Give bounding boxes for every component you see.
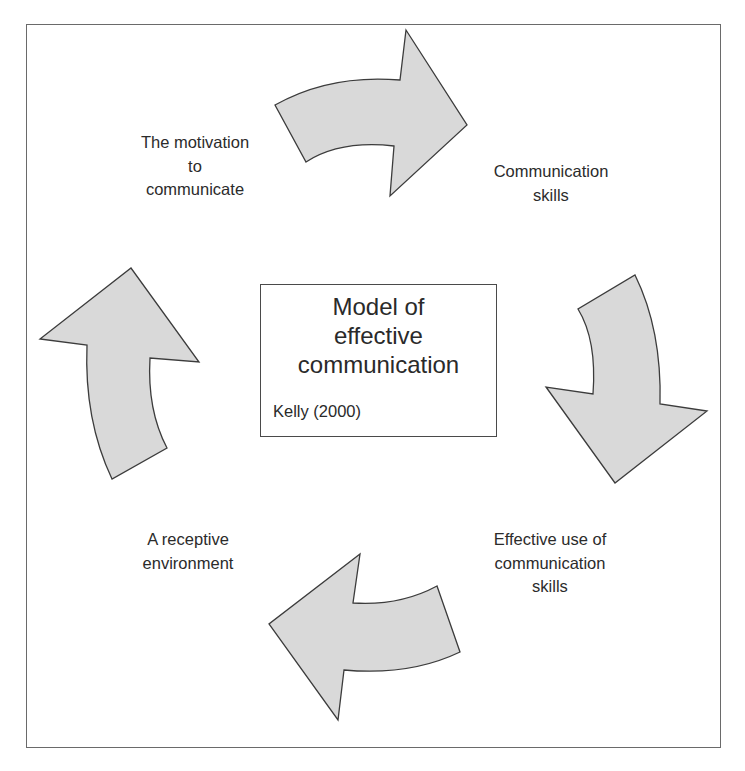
node-receptive-line-1: A receptive [143, 528, 234, 552]
center-title-line-3: communication [261, 350, 496, 379]
center-title-line-1: Model of [261, 292, 496, 321]
citation: Kelly (2000) [273, 402, 361, 421]
arrow-left-icon [269, 554, 460, 720]
node-motivation-line-1: The motivation [141, 131, 249, 155]
node-skills-line-2: skills [494, 184, 609, 208]
arrow-down-icon [546, 275, 707, 483]
node-effective-use: Effective use of communication skills [494, 528, 607, 599]
node-effective-use-line-1: Effective use of [494, 528, 607, 552]
node-skills-line-1: Communication [494, 160, 609, 184]
node-motivation-line-2: to [141, 155, 249, 179]
center-title: Model of effective communication [261, 292, 496, 379]
node-skills: Communication skills [494, 160, 609, 207]
center-title-line-2: effective [261, 321, 496, 350]
center-model-box: Model of effective communication Kelly (… [260, 284, 497, 437]
node-motivation-line-3: communicate [141, 178, 249, 202]
node-motivation: The motivation to communicate [141, 131, 249, 202]
node-effective-use-line-2: communication [494, 552, 607, 576]
node-receptive-environment: A receptive environment [143, 528, 234, 575]
arrow-up-icon [40, 268, 199, 479]
arrow-right-icon [275, 30, 467, 196]
node-receptive-line-2: environment [143, 552, 234, 576]
node-effective-use-line-3: skills [494, 575, 607, 599]
